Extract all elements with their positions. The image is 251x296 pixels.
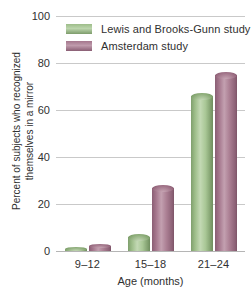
y-axis-tick-label: 0 [44, 245, 50, 257]
legend-swatch-purple-icon [66, 41, 92, 51]
y-axis-tick-label: 100 [32, 10, 50, 22]
legend-swatch-green-icon [66, 24, 92, 34]
y-axis-title-line-2: themselves in a mirror [24, 82, 35, 180]
bar-body [191, 96, 213, 251]
x-axis-tick-label: 21–24 [184, 258, 244, 270]
y-axis-tick-label: 40 [38, 151, 50, 163]
bar-top-cap [191, 93, 213, 100]
legend-item: Lewis and Brooks-Gunn study [66, 21, 250, 36]
bar [152, 188, 174, 251]
legend: Lewis and Brooks-Gunn study Amsterdam st… [66, 21, 250, 55]
x-axis-tick-label: 15–18 [121, 258, 181, 270]
y-axis-tick-label: 20 [38, 198, 50, 210]
bar [215, 75, 237, 251]
bar-body [215, 75, 237, 251]
bar [128, 237, 150, 251]
bar-top-cap [65, 247, 87, 251]
y-axis-title: Percent of subjects who recognized thems… [10, 31, 36, 231]
bar-chart: Percent of subjects who recognized thems… [0, 0, 251, 296]
legend-label: Amsterdam study [101, 40, 188, 52]
bar-top-cap [215, 72, 237, 79]
bar [65, 249, 87, 251]
y-axis-tick-label: 60 [38, 104, 50, 116]
legend-item: Amsterdam study [66, 38, 250, 53]
bar-top-cap [152, 185, 174, 192]
bar-body [152, 188, 174, 251]
bar [191, 96, 213, 251]
bar-top-cap [128, 234, 150, 241]
x-axis-title: Age (months) [56, 275, 245, 287]
bar [89, 246, 111, 251]
y-axis-tick-label: 80 [38, 57, 50, 69]
legend-label: Lewis and Brooks-Gunn study [101, 23, 250, 35]
y-axis-title-line-1: Percent of subjects who recognized [11, 52, 22, 210]
x-axis-line [56, 251, 245, 252]
x-axis-tick-label: 9–12 [58, 258, 118, 270]
